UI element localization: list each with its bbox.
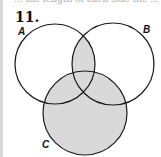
label-a: A — [17, 26, 25, 37]
label-c: C — [42, 139, 50, 150]
venn-diagram: A B C — [0, 0, 161, 157]
label-b: B — [143, 24, 150, 35]
